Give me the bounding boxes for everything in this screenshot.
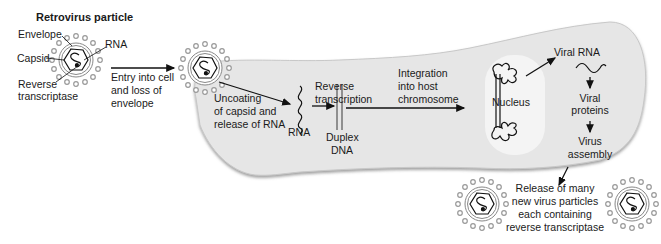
step-duplex-dna-2: DNA — [326, 144, 358, 156]
step-release-1: Release of many — [505, 182, 605, 194]
step-rna: RNA — [288, 126, 310, 138]
label-envelope: Envelope — [18, 28, 62, 40]
step-release-4: reverse transcriptase — [505, 221, 605, 233]
step-integration-1: Integration — [398, 67, 448, 79]
step-viral-proteins-2: proteins — [565, 104, 615, 116]
step-entry-2: and loss of — [111, 84, 162, 96]
step-release-2: new virus particles — [505, 195, 605, 207]
step-reverse-transcription-1: Reverse — [315, 80, 354, 92]
diagram-title: Retrovirus particle — [36, 11, 133, 23]
step-duplex-dna-1: Duplex — [326, 131, 358, 143]
step-entry-1: Entry into cell — [111, 71, 174, 83]
step-viral-rna: Viral RNA — [554, 46, 600, 58]
step-viral-proteins-1: Viral — [565, 92, 615, 104]
step-release-3: each containing — [505, 208, 605, 220]
step-entry-3: envelope — [111, 97, 154, 109]
step-nucleus: Nucleus — [492, 96, 530, 108]
step-uncoating-1: Uncoating — [214, 92, 261, 104]
label-reverse-transcriptase-1: Reverse — [18, 78, 57, 90]
label-rna: RNA — [105, 38, 127, 50]
step-integration-3: chromosome — [398, 93, 459, 105]
label-reverse-transcriptase-2: transcriptase — [18, 90, 78, 102]
label-capsid: Capsid — [17, 52, 50, 64]
step-virus-assembly-2: assembly — [565, 148, 615, 160]
step-uncoating-2: of capsid and — [214, 105, 276, 117]
released-virus-left-icon — [456, 178, 509, 231]
step-virus-assembly-1: Virus — [565, 135, 615, 147]
step-uncoating-3: release of RNA — [214, 118, 285, 130]
released-virus-right-icon — [606, 178, 659, 231]
retrovirus-particle-icon — [50, 34, 103, 87]
step-reverse-transcription-2: transcription — [315, 93, 372, 105]
step-integration-2: into host — [398, 80, 438, 92]
